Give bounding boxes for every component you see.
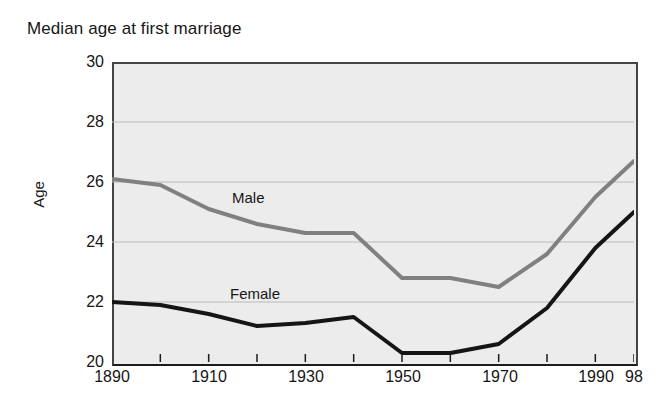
x-tick-label-1910: 1910 bbox=[179, 368, 239, 386]
x-tick-label-1890: 1890 bbox=[82, 368, 142, 386]
chart-figure: Median age at first marriage Age 30 28 2… bbox=[0, 0, 668, 412]
y-tick-label-22: 22 bbox=[52, 294, 104, 310]
y-tick-label-24: 24 bbox=[52, 234, 104, 250]
x-tick-label-1930: 1930 bbox=[276, 368, 336, 386]
gridlines bbox=[112, 122, 634, 302]
series-lines bbox=[112, 161, 634, 353]
x-tick-label-1970: 1970 bbox=[470, 368, 530, 386]
y-tick-label-28: 28 bbox=[52, 114, 104, 130]
chart-title: Median age at first marriage bbox=[27, 19, 241, 39]
y-tick-label-26: 26 bbox=[52, 174, 104, 190]
series-line-female bbox=[112, 212, 634, 353]
y-tick-label-30: 30 bbox=[52, 54, 104, 70]
x-tick-label-98: 98 bbox=[614, 368, 654, 386]
plot-canvas bbox=[112, 62, 634, 362]
series-line-male bbox=[112, 161, 634, 287]
x-tick-marks bbox=[160, 354, 634, 362]
x-tick-label-1950: 1950 bbox=[373, 368, 433, 386]
y-axis-title: Age bbox=[30, 155, 47, 235]
